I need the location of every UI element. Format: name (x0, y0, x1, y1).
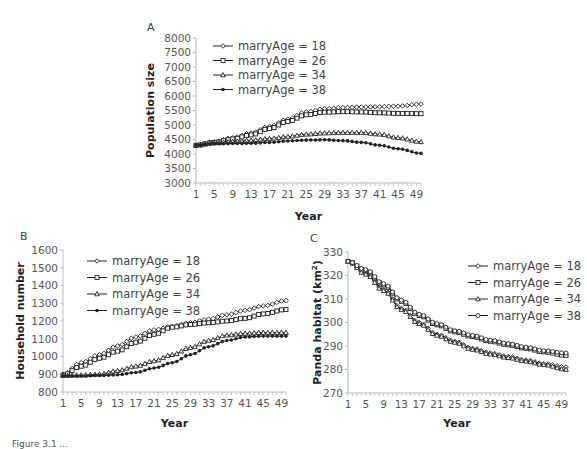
data-point-marker (220, 334, 225, 338)
data-point-marker (230, 338, 234, 342)
data-point-marker (84, 374, 88, 378)
panel-label: A (147, 21, 155, 34)
data-point-marker (234, 337, 238, 341)
data-point-marker (208, 142, 212, 146)
data-point-marker (229, 333, 234, 337)
data-point-marker (364, 268, 368, 272)
data-point-marker (116, 373, 120, 377)
data-point-marker (84, 363, 88, 367)
data-point-marker (125, 345, 129, 349)
data-point-marker (295, 139, 299, 143)
data-point-marker (231, 142, 235, 146)
data-point-marker (524, 345, 528, 349)
legend-label: marryAge = 18 (112, 254, 200, 268)
data-point-marker (399, 298, 403, 302)
data-point-marker (93, 374, 97, 378)
data-point-marker (111, 373, 115, 377)
data-point-marker (405, 137, 410, 141)
x-tick-label: 1 (193, 188, 200, 200)
series-square (61, 307, 288, 377)
data-point-marker (175, 360, 179, 364)
data-point-marker (415, 151, 419, 155)
data-point-marker (243, 308, 248, 313)
x-tick-label: 5 (78, 397, 85, 409)
data-point-marker (229, 312, 234, 317)
legend-item: marryAge = 38 (213, 83, 326, 97)
data-point-marker (368, 105, 373, 110)
y-tick-label: 7000 (164, 61, 191, 73)
data-point-marker (102, 355, 106, 359)
data-point-marker (215, 335, 220, 339)
data-point-marker (318, 131, 323, 135)
data-point-marker (419, 139, 424, 143)
y-tick-label: 280 (323, 363, 343, 375)
data-point-marker (157, 365, 161, 369)
data-point-marker (364, 110, 368, 114)
axes: 8009001000110012001300140015001600159131… (31, 244, 288, 409)
data-point-marker (528, 346, 532, 350)
data-point-marker (373, 275, 377, 279)
data-point-marker (373, 111, 377, 115)
data-point-marker (396, 111, 400, 115)
data-point-marker (147, 329, 152, 334)
y-tick-label: 4000 (164, 148, 191, 160)
y-tick-label: 3500 (164, 162, 191, 174)
data-point-marker (410, 150, 414, 154)
data-point-marker (314, 138, 318, 142)
data-point-marker (332, 110, 336, 114)
data-point-marker (257, 313, 261, 317)
data-point-marker (252, 331, 257, 335)
data-point-marker (193, 352, 197, 356)
y-tick-label: 300 (323, 316, 343, 328)
data-point-marker (238, 309, 243, 314)
data-point-marker (279, 308, 283, 312)
data-point-marker (257, 334, 261, 338)
data-point-marker (61, 374, 65, 378)
legend-item: marryAge = 34 (87, 287, 200, 301)
data-point-marker (457, 329, 461, 333)
y-tick-label: 8000 (164, 32, 191, 44)
data-point-marker (336, 130, 341, 134)
legend-item: marryAge = 34 (213, 68, 326, 82)
x-tick-label: 9 (380, 398, 387, 410)
data-point-marker (400, 104, 405, 109)
y-tick-label: 1500 (31, 262, 58, 274)
y-tick-label: 330 (323, 246, 343, 258)
data-point-marker (414, 139, 419, 143)
data-point-marker (152, 366, 156, 370)
data-point-marker (386, 284, 390, 288)
data-point-marker (111, 369, 116, 373)
y-axis-title: Population size (144, 63, 157, 158)
legend-item: marryAge = 34 (468, 292, 581, 306)
x-tick-label: 5 (362, 398, 369, 410)
data-point-marker (143, 368, 147, 372)
data-point-marker (387, 134, 392, 138)
data-point-marker (249, 141, 253, 145)
data-point-marker (511, 342, 515, 346)
data-point-marker (346, 110, 350, 114)
data-point-marker (475, 334, 479, 338)
data-point-marker (211, 321, 215, 325)
data-point-marker (180, 357, 184, 361)
data-point-marker (350, 110, 354, 114)
y-tick-label: 3000 (164, 177, 191, 189)
data-point-marker (222, 142, 226, 146)
x-tick-label: 41 (238, 397, 251, 409)
data-point-marker (360, 141, 364, 145)
legend-marker-icon (95, 276, 99, 280)
data-point-marker (408, 305, 412, 309)
data-point-marker (239, 336, 243, 340)
data-point-marker (413, 310, 417, 314)
data-point-marker (542, 349, 546, 353)
data-point-marker (345, 105, 350, 110)
data-point-marker (391, 104, 396, 109)
data-point-marker (290, 134, 295, 138)
data-point-marker (166, 362, 170, 366)
x-tick-label: 45 (257, 397, 270, 409)
legend: marryAge = 18marryAge = 26marryAge = 34m… (213, 39, 326, 97)
legend-label: marryAge = 38 (238, 83, 326, 97)
data-point-marker (502, 341, 506, 345)
legend-label: marryAge = 34 (238, 68, 326, 82)
data-point-marker (138, 334, 143, 339)
data-point-marker (198, 322, 202, 326)
